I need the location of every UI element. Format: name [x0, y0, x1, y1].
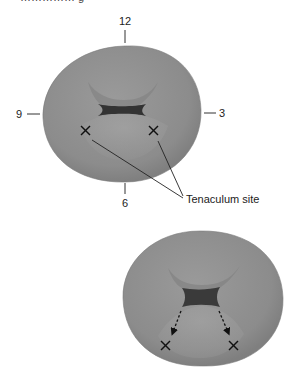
cervical-os-bottom [182, 287, 220, 307]
top-cervix-view [27, 30, 216, 198]
clock-label-9: 9 [16, 109, 22, 120]
cervix-body-top [43, 46, 201, 182]
clock-label-3: 3 [219, 108, 225, 119]
bottom-cervix-view [123, 231, 283, 366]
clock-label-6: 6 [122, 198, 128, 209]
clock-label-12: 12 [119, 16, 131, 27]
cervix-diagram [0, 0, 286, 381]
tenaculum-site-label: Tenaculum site [186, 194, 259, 205]
